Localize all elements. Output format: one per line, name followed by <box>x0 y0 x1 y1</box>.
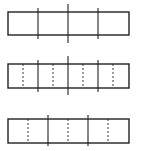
strip-quarters <box>8 4 129 43</box>
strip-outline <box>8 119 129 143</box>
strip-sixths <box>8 115 129 146</box>
strip-eighths <box>8 56 129 95</box>
fraction-strips-diagram <box>0 0 144 151</box>
